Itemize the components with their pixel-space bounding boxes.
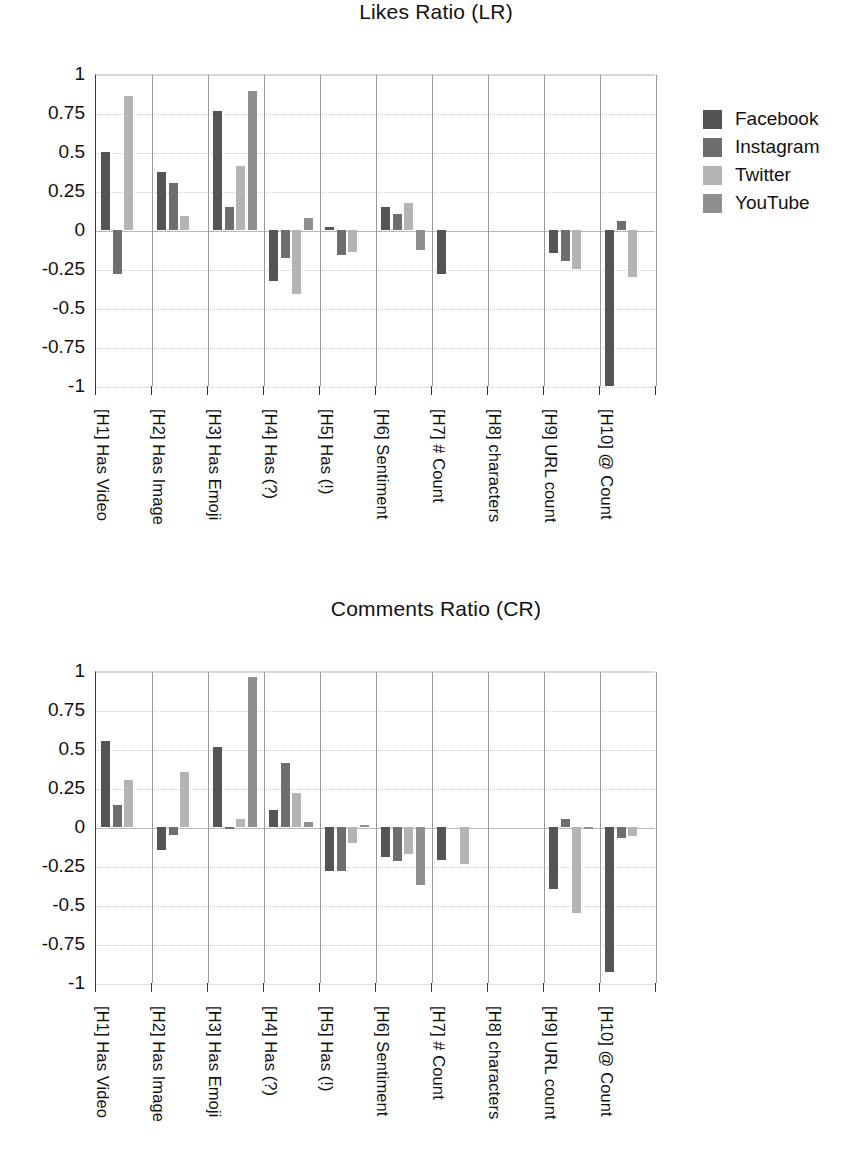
chart-comments-ratio: Comments Ratio (CR) 10.750.50.250-0.25-0… <box>0 597 842 1173</box>
bar <box>381 207 390 230</box>
x-axis-category-label: [H1] Has Video <box>93 409 112 521</box>
legend-swatch-icon <box>703 138 722 157</box>
y-axis-tick-label: 0.75 <box>7 102 85 124</box>
category-separator <box>600 672 601 983</box>
bar <box>101 741 110 827</box>
bar <box>337 230 346 255</box>
x-axis-tick-mark <box>207 386 208 395</box>
category-separator <box>656 672 657 983</box>
bar <box>337 827 346 871</box>
y-axis-tick-label: -0.5 <box>7 894 85 916</box>
category-separator <box>600 75 601 386</box>
x-axis-category-label: [H6] Sentiment <box>373 409 392 520</box>
x-axis-category-label: [H3] Has Emoji <box>205 409 224 520</box>
bar <box>348 230 357 252</box>
bar <box>269 230 278 281</box>
category-separator <box>264 75 265 386</box>
x-axis-category-label: [H3] Has Emoji <box>205 1006 224 1117</box>
bar <box>437 827 446 860</box>
x-axis-tick-mark <box>207 983 208 992</box>
plot-frame <box>95 74 655 386</box>
bar <box>236 166 245 230</box>
legend-swatch-icon <box>703 166 722 185</box>
y-axis-tick-label: 0.5 <box>7 738 85 760</box>
y-axis-tick-label: -0.25 <box>7 258 85 280</box>
bar <box>549 827 558 889</box>
bar <box>393 214 402 230</box>
y-axis-tick-label: 0 <box>7 219 85 241</box>
category-separator <box>656 75 657 386</box>
x-axis-category-label: [H4] Has (?) <box>261 1006 280 1096</box>
category-separator <box>208 672 209 983</box>
bar <box>460 827 469 864</box>
bar <box>124 96 133 230</box>
bar <box>549 230 558 253</box>
x-axis-category-label: [H2] Has Image <box>149 409 168 525</box>
bar <box>572 230 581 269</box>
category-separator <box>320 672 321 983</box>
x-axis-tick-mark <box>599 983 600 992</box>
bar <box>248 91 257 230</box>
y-axis-tick-label: 0 <box>7 816 85 838</box>
bar <box>101 152 110 230</box>
x-axis-tick-mark <box>543 983 544 992</box>
y-axis-tick-label: 0.25 <box>7 777 85 799</box>
category-separator <box>208 75 209 386</box>
x-axis-tick-mark <box>151 983 152 992</box>
bar <box>180 772 189 827</box>
bar <box>304 218 313 230</box>
bar <box>113 805 122 827</box>
y-axis-tick-label: -1 <box>7 375 85 397</box>
legend-item-facebook: Facebook <box>703 105 819 133</box>
x-axis-tick-mark <box>431 386 432 395</box>
legend-label: Facebook <box>735 108 818 130</box>
category-separator <box>152 75 153 386</box>
bar <box>113 230 122 274</box>
y-axis-tick-label: -0.25 <box>7 855 85 877</box>
x-axis-category-label: [H4] Has (?) <box>261 409 280 499</box>
x-axis-category-label: [H10] @ Count <box>597 1006 616 1117</box>
bar <box>213 111 222 230</box>
bar <box>628 230 637 277</box>
y-axis-tick-label: 0.5 <box>7 141 85 163</box>
x-axis-tick-mark <box>319 983 320 992</box>
category-separator <box>320 75 321 386</box>
bar <box>617 221 626 230</box>
x-axis-category-label: [H5] Has (!) <box>317 409 336 495</box>
bar <box>213 747 222 827</box>
x-axis-tick-mark <box>95 386 96 395</box>
legend-swatch-icon <box>703 110 722 129</box>
bar <box>617 827 626 838</box>
bar <box>248 677 257 827</box>
bar <box>325 227 334 230</box>
bar <box>416 230 425 250</box>
bar <box>169 183 178 230</box>
y-axis-tick-label: -1 <box>7 972 85 994</box>
x-axis-tick-mark <box>543 386 544 395</box>
bar <box>236 819 245 827</box>
bar <box>269 810 278 827</box>
bar <box>561 230 570 261</box>
y-axis-tick-label: 0.25 <box>7 180 85 202</box>
bar <box>437 230 446 274</box>
bar <box>325 827 334 871</box>
category-separator <box>544 75 545 386</box>
x-axis-tick-mark <box>319 386 320 395</box>
bar <box>393 827 402 861</box>
x-axis-category-label: [H8] characters <box>485 409 504 522</box>
bar <box>292 230 301 294</box>
plot-frame <box>95 671 655 983</box>
x-axis-category-label: [H6] Sentiment <box>373 1006 392 1117</box>
x-axis-tick-mark <box>375 386 376 395</box>
chart-likes-ratio: Likes Ratio (LR) 10.750.50.250-0.25-0.5-… <box>0 0 842 576</box>
bar <box>561 819 570 827</box>
legend-label: YouTube <box>735 192 810 214</box>
category-separator <box>432 672 433 983</box>
bar <box>628 827 637 836</box>
chart-legend: FacebookInstagramTwitterYouTube <box>703 105 819 217</box>
bar <box>404 203 413 230</box>
category-separator <box>488 672 489 983</box>
bar <box>225 827 234 829</box>
x-axis-category-label: [H10] @ Count <box>597 409 616 520</box>
legend-swatch-icon <box>703 194 722 213</box>
